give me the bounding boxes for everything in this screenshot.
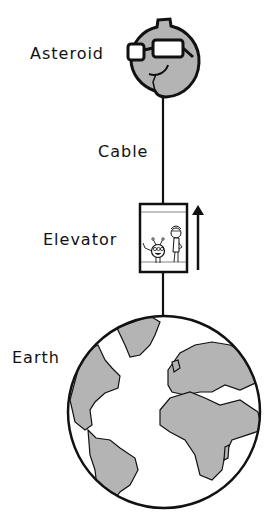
earth-globe-icon	[68, 316, 262, 515]
earth-label: Earth	[12, 348, 60, 367]
asteroid-label: Asteroid	[30, 44, 104, 63]
cable-label: Cable	[98, 142, 148, 161]
elevator-car-icon	[140, 204, 187, 272]
space-elevator-diagram	[0, 0, 272, 532]
elevator-label: Elevator	[43, 230, 117, 249]
asteroid-with-sunglasses-icon	[128, 19, 199, 97]
up-arrow-icon	[192, 205, 204, 270]
